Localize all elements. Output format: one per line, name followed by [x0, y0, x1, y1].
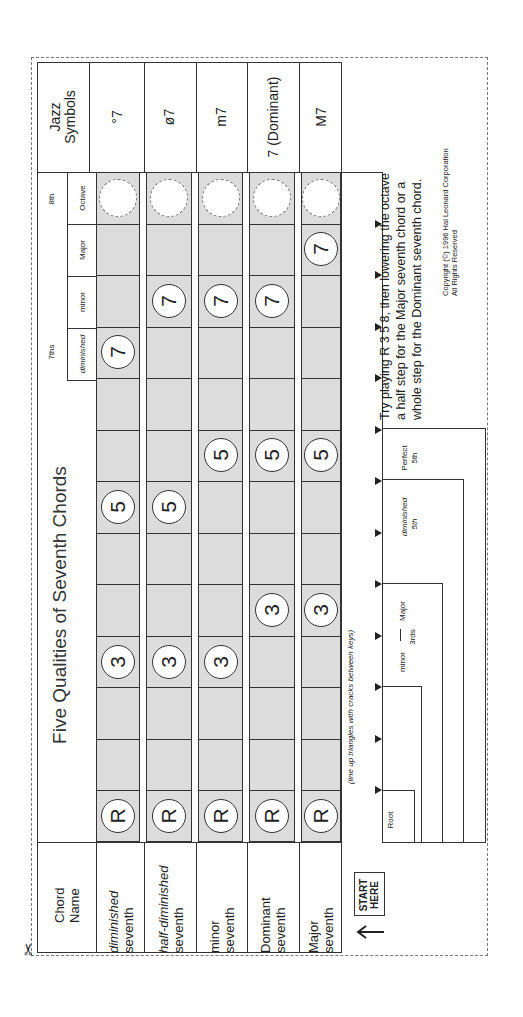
key-divider — [249, 687, 295, 688]
key-divider — [198, 533, 243, 534]
tone-label: R — [309, 809, 333, 824]
key-divider — [146, 739, 192, 740]
tone-label: 5 — [209, 450, 233, 462]
alignment-triangle-icon — [375, 632, 382, 640]
chord-tone-root: R — [204, 799, 238, 833]
here-label: HERE — [369, 881, 380, 909]
bracket-line — [382, 842, 486, 843]
symbol-text: m7 — [213, 107, 229, 126]
tone-label: 5 — [157, 501, 181, 513]
bracket-line — [442, 583, 443, 842]
instruction-line: whole step for the Dominant seventh chor… — [409, 179, 425, 420]
label-thirds: 3rds — [405, 617, 419, 657]
label-text: 7ths — [47, 344, 56, 359]
label-perfect-fifth-suffix: 5th — [407, 433, 421, 483]
divider — [67, 380, 96, 381]
key-divider — [249, 790, 295, 791]
key-divider — [198, 327, 243, 328]
octave-placeholder — [99, 179, 137, 217]
chord-tone-5: 5 — [204, 438, 238, 472]
key-divider — [96, 430, 140, 431]
start-here-text: START HERE — [355, 873, 383, 917]
chord-tone-5: 5 — [152, 490, 186, 524]
jazz-symbol-diminished: °7 — [105, 62, 129, 172]
tone-label: R — [208, 809, 232, 824]
key-divider — [249, 275, 295, 276]
label-text: Octave — [78, 185, 87, 210]
chord-name-label: Chord Name — [52, 873, 82, 923]
chord-name-line2: seventh — [171, 907, 186, 953]
key-divider — [96, 636, 140, 637]
key-divider — [96, 739, 140, 740]
sevenths-group-label: 7ths — [44, 337, 58, 367]
tone-label: 7 — [260, 295, 284, 307]
chord-name-line1: minor — [207, 920, 222, 953]
divider — [196, 62, 197, 172]
chord-name-line2: seventh — [321, 907, 336, 953]
key-divider — [301, 584, 341, 585]
key-divider — [301, 687, 341, 688]
alignment-triangle-icon — [375, 477, 382, 485]
key-divider — [96, 687, 140, 688]
chord-tone-root: R — [101, 799, 135, 833]
key-divider — [198, 275, 243, 276]
key-divider — [96, 224, 140, 225]
chord-tone-root: R — [152, 799, 186, 833]
alignment-triangle-icon — [375, 786, 382, 794]
key-divider — [146, 430, 192, 431]
bracket-line — [485, 428, 486, 842]
key-divider — [301, 533, 341, 534]
bracket-line — [414, 790, 415, 842]
key-divider — [249, 533, 295, 534]
chord-name-half-diminished: half-diminished seventh — [153, 843, 189, 953]
chord-tone-3: 3 — [255, 593, 289, 627]
label-root: Root — [383, 800, 397, 840]
symbol-text: 7 (Dominant) — [265, 77, 281, 158]
interval-header-minor: minor — [75, 276, 89, 328]
instruction-line: a half step for the Major seventh chord … — [393, 182, 409, 420]
symbol-text: °7 — [109, 110, 125, 123]
alignment-triangle-icon — [375, 529, 382, 537]
key-divider — [249, 224, 295, 225]
octave-placeholder — [150, 179, 188, 217]
key-divider — [249, 584, 295, 585]
label-text: 5th — [410, 518, 419, 529]
chord-tone-3: 3 — [204, 645, 238, 679]
key-divider — [301, 275, 341, 276]
key-divider — [249, 430, 295, 431]
alignment-triangle-icon — [375, 735, 382, 743]
key-column — [301, 172, 341, 842]
divider — [247, 842, 248, 952]
chord-tone-root: R — [255, 799, 289, 833]
chord-name-line2: seventh — [222, 907, 237, 953]
key-divider — [146, 584, 192, 585]
scissors-icon: ✂ — [19, 943, 38, 956]
key-divider — [146, 687, 192, 688]
bracket-line — [421, 686, 422, 842]
key-divider — [96, 327, 140, 328]
alignment-triangle-icon — [375, 580, 382, 588]
bracket-line — [382, 428, 485, 429]
key-divider — [198, 430, 243, 431]
label-text: Root — [386, 812, 395, 829]
key-divider — [198, 378, 243, 379]
label-text: 5th — [410, 452, 419, 463]
key-divider — [146, 533, 192, 534]
chord-name-major: Major seventh — [303, 843, 339, 953]
key-divider — [96, 584, 140, 585]
copyright: Copyright (©) 1996 Hal Leonard Corporati… — [439, 116, 461, 296]
divider — [247, 62, 248, 172]
copyright-line: Copyright (©) 1996 Hal Leonard Corporati… — [441, 148, 450, 296]
divider — [89, 62, 90, 172]
chord-tone-7: 7 — [152, 284, 186, 318]
chord-name-header: Chord Name — [49, 843, 85, 953]
key-divider — [198, 739, 243, 740]
title-text: Five Qualities of Seventh Chords — [49, 466, 71, 744]
key-divider — [146, 224, 192, 225]
octave-placeholder — [202, 179, 240, 217]
tone-label: 7 — [157, 295, 181, 307]
key-divider — [146, 378, 192, 379]
octave-placeholder — [253, 179, 291, 217]
label-text: Major — [78, 240, 87, 260]
bracket-line — [382, 686, 421, 687]
